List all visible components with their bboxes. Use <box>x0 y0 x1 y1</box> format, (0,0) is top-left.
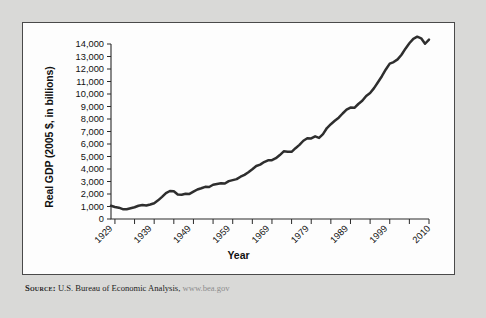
y-tick-label: 2,000 <box>81 189 104 199</box>
y-tick-label: 7,000 <box>81 127 104 137</box>
y-tick-label: 10,000 <box>76 89 104 99</box>
y-tick-label: 11,000 <box>76 77 104 87</box>
x-tick-label: 1989 <box>328 223 350 245</box>
x-tick-label: 1979 <box>289 223 311 245</box>
x-tick-label: 1959 <box>210 223 232 245</box>
plot-area: 01,0002,0003,0004,0005,0006,0007,0008,00… <box>23 23 456 276</box>
source-url[interactable]: www.bea.gov <box>182 283 229 293</box>
chart-panel: Real GDP (2005 $, in billions) Year 01,0… <box>22 22 455 275</box>
y-tick-label: 12,000 <box>76 64 104 74</box>
y-tick-label: 1,000 <box>81 202 104 212</box>
gdp-line-chart: 01,0002,0003,0004,0005,0006,0007,0008,00… <box>23 23 456 276</box>
x-tick-label: 1999 <box>368 223 390 245</box>
y-tick-label: 0 <box>99 214 104 224</box>
x-tick-label: 2010 <box>411 223 433 245</box>
y-tick-label: 4,000 <box>81 164 104 174</box>
source-label: Source: <box>25 283 56 293</box>
x-tick-label: 1969 <box>250 223 272 245</box>
y-tick-label: 3,000 <box>81 177 104 187</box>
x-axis-ticks: 192919391949195919691979198919992010 <box>93 219 433 245</box>
y-tick-label: 5,000 <box>81 152 104 162</box>
y-tick-label: 9,000 <box>81 102 104 112</box>
y-tick-label: 14,000 <box>76 39 104 49</box>
y-tick-label: 6,000 <box>81 139 104 149</box>
y-tick-label: 13,000 <box>76 52 104 62</box>
source-agency: U.S. Bureau of Economic Analysis, <box>58 283 180 293</box>
axis-lines <box>111 44 429 219</box>
gdp-series-line <box>111 37 429 210</box>
x-tick-label: 1949 <box>171 223 193 245</box>
y-axis-ticks: 01,0002,0003,0004,0005,0006,0007,0008,00… <box>76 39 111 224</box>
source-note: Source: U.S. Bureau of Economic Analysis… <box>25 283 230 293</box>
y-tick-label: 8,000 <box>81 114 104 124</box>
figure-page: Real GDP (2005 $, in billions) Year 01,0… <box>0 0 486 318</box>
x-tick-label: 1929 <box>93 223 115 245</box>
x-tick-label: 1939 <box>132 223 154 245</box>
